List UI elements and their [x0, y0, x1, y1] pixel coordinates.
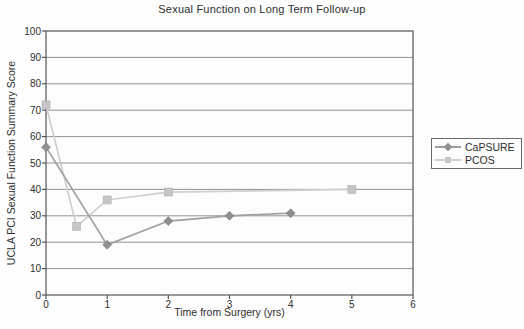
x-axis-title: Time from Surgery (yrs)	[46, 306, 413, 318]
chart-figure: Sexual Function on Long Term Follow-up U…	[0, 0, 524, 329]
y-tick-label: 100	[0, 26, 41, 37]
y-tick-label: 80	[0, 78, 41, 89]
y-tick-label: 40	[0, 184, 41, 195]
y-tick-label: 60	[0, 131, 41, 142]
y-tick-label: 70	[0, 105, 41, 116]
square-marker-icon	[445, 157, 451, 163]
legend: CaPSURE PCOS	[431, 138, 522, 169]
legend-item-capsure: CaPSURE	[435, 140, 518, 153]
capsure-line-diamond-icon	[435, 142, 461, 151]
legend-label-pcos: PCOS	[465, 154, 495, 166]
legend-item-pcos: PCOS	[435, 154, 518, 167]
diamond-marker-icon	[444, 143, 452, 151]
y-tick-label: 90	[0, 52, 41, 63]
y-tick-label: 20	[0, 237, 41, 248]
y-tick-label: 10	[0, 263, 41, 274]
y-tick-label: 30	[0, 210, 41, 221]
legend-label-capsure: CaPSURE	[465, 141, 515, 153]
y-tick-label: 50	[0, 158, 41, 169]
pcos-line-square-icon	[435, 156, 461, 165]
